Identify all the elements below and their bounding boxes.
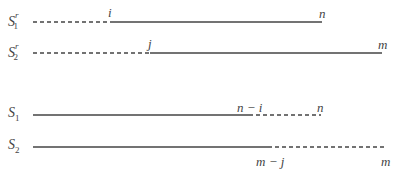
label-n-top: n [319,7,326,20]
label-n-minus-i: n − i [237,101,262,114]
label-m-minus-j: m − j [256,155,284,168]
row-label-base: S [8,105,15,120]
row-label-sub: 2 [14,52,19,62]
row-label-s2: S2 [8,138,20,155]
label-m-bottom: m [381,155,390,168]
label-j: j [148,37,152,50]
row-label-s1r: Sr1 [8,13,23,31]
row-label-sup: r [15,41,19,51]
sequence-diagram [0,0,398,169]
row-label-s2r: Sr2 [8,44,23,62]
row-label-s1: S1 [8,106,20,123]
label-n-bottom: n [317,101,324,114]
label-i: i [108,6,112,19]
row-label-sub: 1 [14,21,19,31]
row-label-base: S [8,137,15,152]
row-label-sub: 2 [15,145,20,155]
row-label-sub: 1 [15,113,20,123]
label-m-top: m [378,38,387,51]
row-label-sup: r [15,10,19,20]
